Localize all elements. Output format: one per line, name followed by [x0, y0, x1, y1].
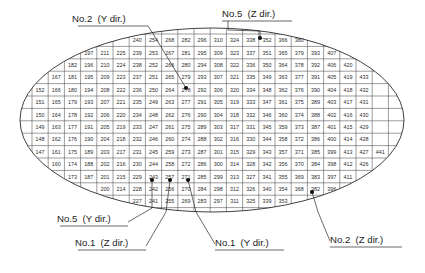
element-number: 305	[214, 99, 223, 105]
element-number: 265	[165, 74, 174, 80]
element-number: 335	[246, 74, 255, 80]
element-number: 414	[343, 136, 352, 142]
element-number: 323	[230, 50, 239, 56]
element-number: 310	[214, 37, 223, 43]
callout-leader-line	[312, 192, 330, 241]
element-number: 173	[68, 174, 77, 180]
element-number: 355	[279, 174, 288, 180]
element-number: 182	[68, 62, 77, 68]
element-number: 389	[311, 99, 320, 105]
element-number: 220	[117, 112, 126, 118]
element-number: 241	[149, 198, 158, 204]
element-number: 427	[360, 149, 369, 155]
element-number: 358	[279, 136, 288, 142]
element-number: 152	[36, 87, 45, 93]
callout-label: No.2 (Z dir.)	[330, 234, 383, 245]
element-number: 352	[262, 37, 271, 43]
element-number: 244	[149, 161, 158, 167]
element-number: 294	[198, 62, 207, 68]
element-number: 330	[246, 136, 255, 142]
element-number: 245	[149, 149, 158, 155]
element-number: 303	[214, 124, 223, 130]
element-number: 333	[246, 99, 255, 105]
element-number: 357	[279, 149, 288, 155]
element-number: 342	[262, 161, 271, 167]
element-number: 289	[198, 124, 207, 130]
element-number: 372	[295, 136, 304, 142]
measurement-point-marker	[310, 190, 314, 194]
element-number: 396	[327, 186, 336, 192]
element-number: 266	[165, 62, 174, 68]
element-number: 347	[262, 99, 271, 105]
element-number: 174	[68, 161, 77, 167]
element-number: 418	[343, 87, 352, 93]
element-number: 150	[36, 112, 45, 118]
element-number: 336	[246, 62, 255, 68]
element-number: 240	[133, 37, 142, 43]
element-number: 376	[295, 87, 304, 93]
element-number: 295	[198, 50, 207, 56]
element-number: 273	[181, 149, 190, 155]
element-number: 412	[343, 161, 352, 167]
element-number: 332	[246, 112, 255, 118]
element-number: 288	[198, 136, 207, 142]
element-number: 223	[117, 74, 126, 80]
element-number: 188	[84, 161, 93, 167]
element-number: 301	[214, 149, 223, 155]
element-number: 300	[214, 161, 223, 167]
element-number: 194	[84, 87, 93, 93]
element-number: 215	[117, 174, 126, 180]
element-number: 193	[84, 99, 93, 105]
element-number: 392	[311, 62, 320, 68]
element-number: 285	[198, 174, 207, 180]
element-number: 354	[279, 186, 288, 192]
element-number: 390	[311, 87, 320, 93]
element-number: 337	[246, 50, 255, 56]
element-number: 242	[149, 186, 158, 192]
element-number: 399	[327, 149, 336, 155]
element-number: 166	[52, 87, 61, 93]
element-number: 311	[230, 198, 239, 204]
element-number: 306	[214, 87, 223, 93]
element-number: 263	[165, 99, 174, 105]
element-number: 403	[327, 99, 336, 105]
element-number: 162	[52, 136, 61, 142]
element-number: 441	[376, 149, 385, 155]
element-number: 428	[360, 136, 369, 142]
element-number: 211	[101, 50, 110, 56]
element-number: 362	[279, 87, 288, 93]
element-number: 325	[246, 198, 255, 204]
element-number: 203	[100, 149, 109, 155]
element-number: 321	[230, 74, 239, 80]
element-number: 393	[311, 50, 320, 56]
element-number: 165	[52, 99, 61, 105]
elliptical-grid-diagram: 1521511501491481471671661651641631621611…	[0, 0, 425, 273]
element-number: 406	[327, 62, 336, 68]
element-number: 402	[327, 112, 336, 118]
element-number: 348	[262, 87, 271, 93]
element-number: 416	[343, 112, 352, 118]
element-number: 360	[279, 112, 288, 118]
element-number: 231	[133, 149, 142, 155]
element-number: 322	[230, 62, 239, 68]
element-number: 419	[343, 74, 352, 80]
element-number: 206	[100, 112, 109, 118]
element-number: 377	[295, 74, 304, 80]
element-number: 201	[100, 174, 109, 180]
element-number: 366	[279, 37, 288, 43]
element-number: 260	[165, 136, 174, 142]
element-number: 216	[117, 161, 126, 167]
element-number: 262	[165, 112, 174, 118]
element-number: 361	[279, 99, 288, 105]
element-number: 430	[360, 112, 369, 118]
element-number: 383	[311, 174, 320, 180]
element-number: 281	[181, 50, 190, 56]
element-number: 417	[343, 99, 352, 105]
element-number: 315	[230, 149, 239, 155]
element-number: 205	[100, 124, 109, 130]
measurement-point-marker	[168, 178, 172, 182]
element-number: 284	[198, 186, 207, 192]
element-number: 308	[214, 62, 223, 68]
element-number: 368	[295, 186, 304, 192]
element-number: 404	[327, 87, 336, 93]
